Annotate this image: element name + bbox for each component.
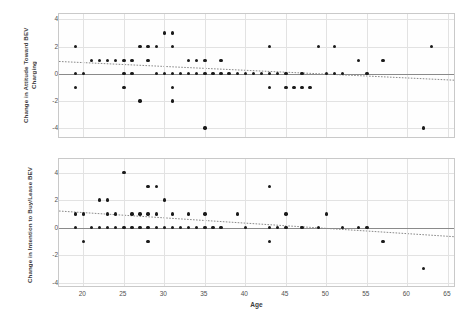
y-tick-label: 0 <box>40 69 58 76</box>
scatter-point <box>163 31 166 34</box>
x-tick-label: 60 <box>396 290 416 297</box>
scatter-point <box>122 171 125 174</box>
gridline-horizontal <box>59 200 454 201</box>
gridline-vertical <box>286 159 287 286</box>
plot-area-intention <box>58 158 455 287</box>
y-tick-label: -4 <box>40 278 58 285</box>
gridline-horizontal <box>59 47 454 48</box>
chart-panel-intention: Change in Intention to Buy/Lease BEV -4-… <box>0 150 475 323</box>
x-tick-label: 30 <box>153 290 173 297</box>
scatter-point <box>308 86 311 89</box>
x-axis-label: Age <box>227 301 287 308</box>
scatter-point <box>325 212 328 215</box>
gridline-vertical <box>124 14 125 137</box>
scatter-point <box>219 59 222 62</box>
gridline-vertical <box>448 14 449 137</box>
scatter-point <box>155 212 158 215</box>
gridline-vertical <box>83 14 84 137</box>
scatter-point <box>130 212 133 215</box>
y-tick-label: 4 <box>40 15 58 22</box>
x-tick-label: 50 <box>315 290 335 297</box>
zero-reference-line <box>59 74 454 75</box>
scatter-point <box>203 212 206 215</box>
scatter-point <box>236 212 239 215</box>
scatter-point <box>146 185 149 188</box>
scatter-point <box>146 59 149 62</box>
scatter-point <box>203 126 206 129</box>
scatter-point <box>381 59 384 62</box>
gridline-vertical <box>367 14 368 137</box>
scatter-point <box>187 212 190 215</box>
gridline-vertical <box>367 159 368 286</box>
scatter-point <box>381 240 384 243</box>
gridline-horizontal <box>59 173 454 174</box>
y-tick-label: -4 <box>40 124 58 131</box>
scatter-point <box>155 185 158 188</box>
scatter-point <box>98 59 101 62</box>
gridline-vertical <box>205 159 206 286</box>
x-tick-label: 55 <box>356 290 376 297</box>
y-tick-label: 0 <box>40 223 58 230</box>
gridline-vertical <box>407 14 408 137</box>
gridline-vertical <box>245 14 246 137</box>
scatter-point <box>146 240 149 243</box>
scatter-figure: Change in Attitude Toward BEV Charging -… <box>0 0 475 323</box>
y-tick-label: 2 <box>40 42 58 49</box>
x-tick-label: 25 <box>113 290 133 297</box>
y-axis-ticks-attitude: -4-2024 <box>0 0 58 138</box>
scatter-point <box>219 226 222 229</box>
scatter-point <box>203 59 206 62</box>
scatter-point <box>138 45 141 48</box>
gridline-vertical <box>124 159 125 286</box>
gridline-horizontal <box>59 128 454 129</box>
scatter-point <box>82 240 85 243</box>
gridline-horizontal <box>59 283 454 284</box>
x-tick-label: 20 <box>72 290 92 297</box>
scatter-point <box>74 212 77 215</box>
scatter-point <box>171 99 174 102</box>
gridline-vertical <box>326 14 327 137</box>
gridline-vertical <box>205 14 206 137</box>
y-axis-ticks-intention: -4-2024 <box>0 150 58 287</box>
scatter-point <box>146 212 149 215</box>
x-tick-label: 35 <box>194 290 214 297</box>
scatter-point <box>292 86 295 89</box>
scatter-point <box>300 86 303 89</box>
gridline-horizontal <box>59 101 454 102</box>
scatter-point <box>300 226 303 229</box>
gridline-vertical <box>448 159 449 286</box>
scatter-point <box>122 226 125 229</box>
scatter-point <box>90 59 93 62</box>
plot-area-attitude <box>58 13 455 138</box>
gridline-horizontal <box>59 255 454 256</box>
y-tick-label: -2 <box>40 96 58 103</box>
scatter-point <box>130 226 133 229</box>
trendline-attitude <box>59 14 454 137</box>
scatter-point <box>284 226 287 229</box>
scatter-point <box>130 59 133 62</box>
gridline-vertical <box>407 159 408 286</box>
gridline-vertical <box>164 159 165 286</box>
gridline-vertical <box>245 159 246 286</box>
y-tick-label: 4 <box>40 168 58 175</box>
trendline-intention <box>59 159 454 286</box>
scatter-point <box>106 212 109 215</box>
scatter-point <box>138 226 141 229</box>
gridline-vertical <box>286 14 287 137</box>
scatter-point <box>365 226 368 229</box>
y-tick-label: -2 <box>40 251 58 258</box>
y-tick-label: 2 <box>40 196 58 203</box>
scatter-point <box>122 59 125 62</box>
scatter-point <box>203 226 206 229</box>
x-tick-label: 65 <box>437 290 457 297</box>
scatter-point <box>284 86 287 89</box>
scatter-point <box>284 212 287 215</box>
scatter-point <box>122 86 125 89</box>
x-tick-label: 40 <box>234 290 254 297</box>
scatter-point <box>171 212 174 215</box>
gridline-vertical <box>326 159 327 286</box>
scatter-point <box>211 226 214 229</box>
scatter-point <box>163 198 166 201</box>
scatter-point <box>98 198 101 201</box>
scatter-point <box>138 99 141 102</box>
